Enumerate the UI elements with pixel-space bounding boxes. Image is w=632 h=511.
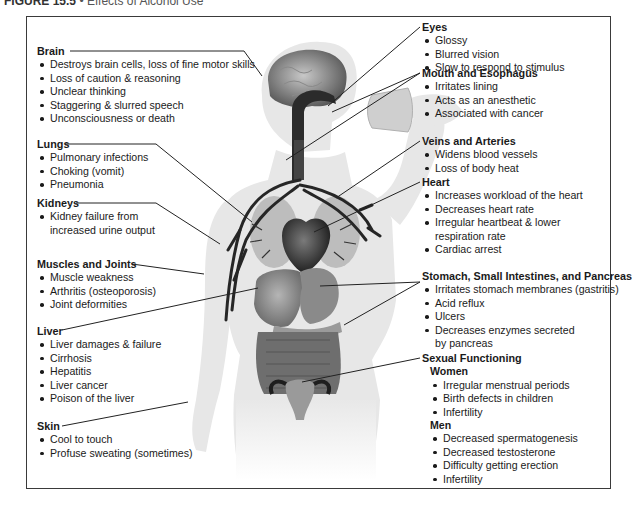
section-sexual-functioning: Sexual Functioning Women Irregular menst… bbox=[422, 352, 578, 486]
list-item: Pneumonia bbox=[37, 178, 148, 191]
subheading-men: Men bbox=[430, 419, 578, 432]
list-item: Associated with cancer bbox=[422, 107, 543, 120]
list-item: Infertility bbox=[430, 406, 578, 419]
effects-list: Widens blood vessels Loss of body heat bbox=[422, 148, 537, 175]
effects-list: Cool to touch Profuse sweating (sometime… bbox=[37, 433, 192, 460]
list-item: Arthritis (osteoporosis) bbox=[37, 285, 156, 298]
effects-list: Muscle weakness Arthritis (osteoporosis)… bbox=[37, 271, 156, 311]
effects-list: Kidney failure from increased urine outp… bbox=[37, 210, 187, 237]
section-heading: Lungs bbox=[37, 138, 148, 151]
section-muscles-joints: Muscles and Joints Muscle weakness Arthr… bbox=[37, 258, 156, 312]
list-item: Decreased testosterone bbox=[430, 446, 578, 459]
effects-list: Increases workload of the heart Decrease… bbox=[422, 189, 597, 256]
effects-list-men: Decreased spermatogenesis Decreased test… bbox=[430, 432, 578, 486]
effects-list: Pulmonary infections Choking (vomit) Pne… bbox=[37, 151, 148, 191]
subheading-women: Women bbox=[430, 365, 578, 378]
section-heading: Skin bbox=[37, 420, 192, 433]
effects-list: Destroys brain cells, loss of fine motor… bbox=[37, 58, 255, 125]
list-item: Blurred vision bbox=[422, 48, 565, 61]
list-item: Ulcers bbox=[422, 310, 608, 323]
section-brain: Brain Destroys brain cells, loss of fine… bbox=[37, 45, 255, 125]
list-item: Destroys brain cells, loss of fine motor… bbox=[37, 58, 255, 71]
list-item: Hepatitis bbox=[37, 365, 161, 378]
section-heading: Heart bbox=[422, 176, 597, 189]
section-heading: Muscles and Joints bbox=[37, 258, 156, 271]
list-item: Birth defects in children bbox=[430, 392, 578, 405]
section-heading: Liver bbox=[37, 325, 161, 338]
list-item: Poison of the liver bbox=[37, 392, 161, 405]
list-item: Infertility bbox=[430, 473, 578, 486]
list-item: Difficulty getting erection bbox=[430, 459, 578, 472]
list-item: Increases workload of the heart bbox=[422, 189, 597, 202]
list-item: Liver cancer bbox=[37, 379, 161, 392]
list-item: Cool to touch bbox=[37, 433, 192, 446]
list-item: Glossy bbox=[422, 34, 565, 47]
list-item: Unconsciousness or death bbox=[37, 112, 255, 125]
section-heading: Sexual Functioning bbox=[422, 352, 578, 365]
list-item: Irregular menstrual periods bbox=[430, 379, 578, 392]
list-item: Irritates stomach membranes (gastritis) bbox=[422, 283, 608, 296]
section-heading: Kidneys bbox=[37, 197, 187, 210]
effects-list: Irritates lining Acts as an anesthetic A… bbox=[422, 80, 543, 120]
section-heading: Eyes bbox=[422, 21, 565, 34]
list-item: Widens blood vessels bbox=[422, 148, 537, 161]
section-skin: Skin Cool to touch Profuse sweating (som… bbox=[37, 420, 192, 460]
section-heading: Mouth and Esophagus bbox=[422, 67, 543, 80]
section-lungs: Lungs Pulmonary infections Choking (vomi… bbox=[37, 138, 148, 192]
list-item: Irregular heartbeat & lower respiration … bbox=[422, 216, 597, 243]
list-item: Decreased spermatogenesis bbox=[430, 432, 578, 445]
effects-list-women: Irregular menstrual periods Birth defect… bbox=[430, 379, 578, 419]
list-item: Acts as an anesthetic bbox=[422, 94, 543, 107]
list-item: Profuse sweating (sometimes) bbox=[37, 447, 192, 460]
section-heading: Veins and Arteries bbox=[422, 135, 537, 148]
list-item: Cirrhosis bbox=[37, 352, 161, 365]
section-veins-arteries: Veins and Arteries Widens blood vessels … bbox=[422, 135, 537, 175]
list-item: Liver damages & failure bbox=[37, 338, 161, 351]
effects-list: Liver damages & failure Cirrhosis Hepati… bbox=[37, 338, 161, 405]
section-heading: Brain bbox=[37, 45, 255, 58]
list-item: Muscle weakness bbox=[37, 271, 156, 284]
list-item: Choking (vomit) bbox=[37, 165, 148, 178]
section-mouth-esophagus: Mouth and Esophagus Irritates lining Act… bbox=[422, 67, 543, 121]
section-kidneys: Kidneys Kidney failure from increased ur… bbox=[37, 197, 187, 237]
list-item: Acid reflux bbox=[422, 297, 608, 310]
section-heart: Heart Increases workload of the heart De… bbox=[422, 176, 597, 256]
list-item: Kidney failure from increased urine outp… bbox=[37, 210, 187, 237]
list-item: Loss of caution & reasoning bbox=[37, 72, 255, 85]
list-item: Joint deformities bbox=[37, 298, 156, 311]
section-stomach-intestines-pancreas: Stomach, Small Intestines, and Pancreas … bbox=[422, 270, 608, 350]
list-item: Staggering & slurred speech bbox=[37, 99, 255, 112]
section-liver: Liver Liver damages & failure Cirrhosis … bbox=[37, 325, 161, 405]
list-item: Loss of body heat bbox=[422, 162, 537, 175]
list-item: Pulmonary infections bbox=[37, 151, 148, 164]
list-item: Irritates lining bbox=[422, 80, 543, 93]
effects-list: Irritates stomach membranes (gastritis) … bbox=[422, 283, 608, 350]
list-item: Unclear thinking bbox=[37, 85, 255, 98]
section-heading: Stomach, Small Intestines, and Pancreas bbox=[422, 270, 608, 283]
list-item: Decreases heart rate bbox=[422, 203, 597, 216]
list-item: Decreases enzymes secreted by pancreas bbox=[422, 324, 575, 351]
list-item: Cardiac arrest bbox=[422, 243, 597, 256]
